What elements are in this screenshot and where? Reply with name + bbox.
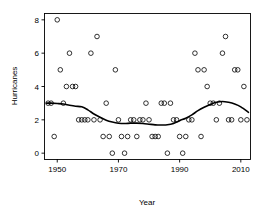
y-tick-label: 4 [35,83,40,92]
y-tick-label: 8 [35,16,40,25]
x-tick-label: 1990 [171,165,189,174]
y-tick-label: 0 [35,149,40,158]
y-tick-label: 6 [35,49,40,58]
hurricanes-scatter-plot: 02468 1950197019902010 Year Hurricanes [0,0,270,220]
y-axis-title: Hurricanes [10,67,19,106]
x-tick-label: 2010 [232,165,250,174]
x-tick-label: 1950 [48,165,66,174]
x-tick-label: 1970 [110,165,128,174]
y-tick-label: 2 [35,116,40,125]
figure-background [0,0,270,220]
hurricanes-scatter-figure: 02468 1950197019902010 Year Hurricanes [0,0,270,220]
x-axis-title: Year [139,198,156,207]
